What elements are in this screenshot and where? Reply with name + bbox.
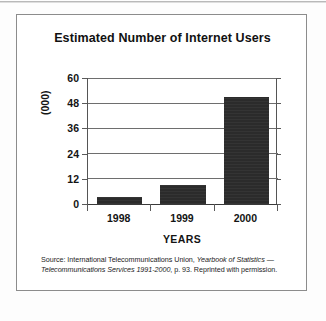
y-tick-mark-right-48 <box>276 103 281 104</box>
bar-1998 <box>97 197 143 204</box>
x-tick-0 <box>87 204 88 211</box>
y-tick-mark-right-24 <box>276 154 281 155</box>
scan-artifact-line-secondary <box>0 2 326 3</box>
x-tick-1 <box>150 204 151 211</box>
scanned-page: Estimated Number of Internet Users (000)… <box>0 0 326 321</box>
x-tick-2 <box>214 204 215 211</box>
y-tick-mark-36 <box>82 128 87 129</box>
y-tick-mark-12 <box>82 179 87 180</box>
y-tick-mark-right-12 <box>276 179 281 180</box>
y-tick-mark-60 <box>82 78 87 79</box>
source-note-suffix: , p. 93. Reprinted with permission. <box>170 265 277 274</box>
y-tick-mark-24 <box>82 154 87 155</box>
source-note: Source: International Telecommunications… <box>41 255 293 274</box>
x-category-label-1998: 1998 <box>107 212 130 224</box>
y-tick-mark-48 <box>82 103 87 104</box>
x-axis-title: YEARS <box>87 233 277 245</box>
source-note-italic-title: Yearbook of Statistics <box>197 255 265 264</box>
y-tick-mark-right-36 <box>276 128 281 129</box>
y-tick-label-48: 48 <box>67 97 79 109</box>
x-axis-line <box>87 204 277 205</box>
y-tick-label-36: 36 <box>67 122 79 134</box>
source-note-prefix: Source: International Telecommunications… <box>41 255 197 264</box>
y-tick-mark-right-60 <box>276 78 281 79</box>
y-tick-label-60: 60 <box>67 72 79 84</box>
y-tick-label-12: 12 <box>67 173 79 185</box>
x-category-label-2000: 2000 <box>234 212 257 224</box>
bar-2000 <box>224 97 270 204</box>
y-tick-label-0: 0 <box>73 198 79 210</box>
gridline-60 <box>88 78 278 79</box>
y-tick-label-24: 24 <box>67 148 79 160</box>
figure-box: Estimated Number of Internet Users (000)… <box>16 14 307 291</box>
x-category-label-1999: 1999 <box>170 212 193 224</box>
plot-area: 01224364860 <box>87 78 277 204</box>
bar-1999 <box>160 185 206 204</box>
chart-title: Estimated Number of Internet Users <box>17 31 308 45</box>
y-axis-title: (000) <box>39 90 51 115</box>
x-tick-3 <box>277 204 278 211</box>
